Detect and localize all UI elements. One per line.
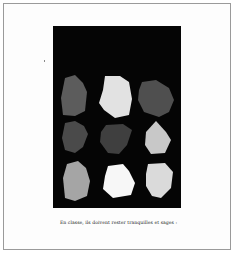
figure-photo bbox=[53, 26, 181, 208]
figure-caption: En classe, ils doivent rester tranquille… bbox=[0, 220, 237, 225]
stone-shapes bbox=[53, 26, 181, 208]
stone-shape-r3c2 bbox=[103, 164, 135, 198]
scan-speck bbox=[44, 60, 45, 62]
stone-shape-r2c3 bbox=[145, 121, 171, 154]
stone-shape-r2c2 bbox=[100, 124, 132, 154]
stone-shape-r3c3 bbox=[146, 163, 173, 198]
stone-shape-r1c1 bbox=[61, 75, 87, 116]
stone-shape-r2c1 bbox=[62, 121, 88, 153]
stone-shape-r1c2 bbox=[99, 76, 132, 118]
stone-shape-r3c1 bbox=[63, 161, 90, 201]
stone-shape-r1c3 bbox=[138, 80, 174, 117]
